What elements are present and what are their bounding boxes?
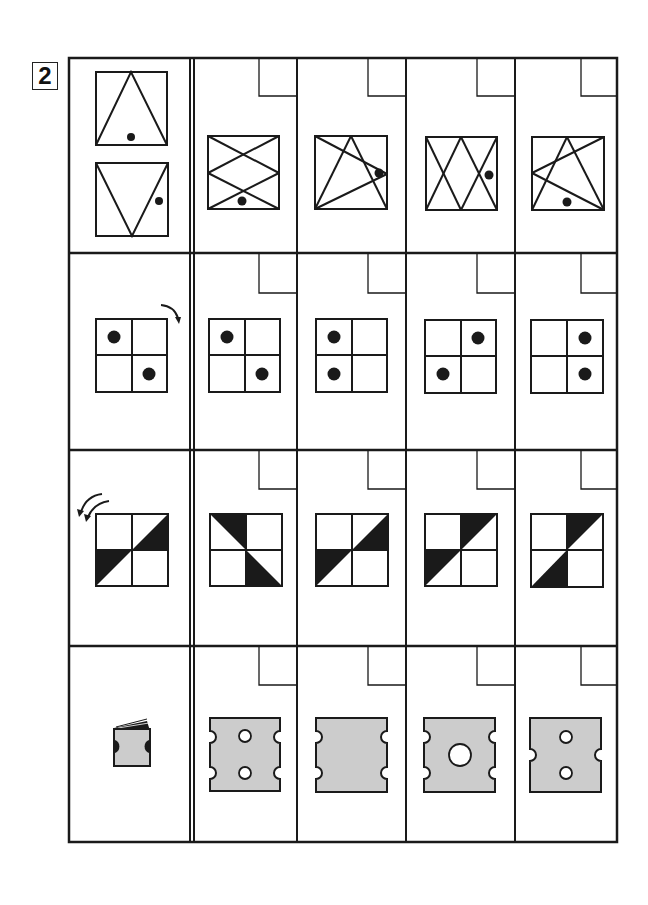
row-1-option-2[interactable] [315,136,387,209]
row-2-option-1[interactable] [209,319,280,392]
clockwise-arrow-icon [161,305,181,324]
row-3-option-4[interactable] [531,514,603,587]
row-2-option-4[interactable] [531,320,603,393]
row-3-option-2[interactable] [316,514,388,586]
row-2-option-3[interactable] [425,320,496,393]
row-3-option-1[interactable] [210,514,282,586]
row-4-option-3[interactable] [424,718,495,792]
double-counterclockwise-arrow-icon [77,494,109,522]
row-2-prompt [96,319,167,392]
row-4-option-1[interactable] [210,718,280,791]
row-3-option-3[interactable] [425,514,497,586]
row-1-option-4[interactable] [532,137,604,210]
row-3-prompt [96,514,168,586]
row-1-option-1[interactable] [208,136,279,209]
row-1-prompt [96,72,168,236]
row-1-option-3[interactable] [426,137,497,210]
row-4-option-4[interactable] [530,718,601,792]
puzzle-grid [0,0,648,905]
row-4-prompt-folded-paper [114,719,150,766]
row-2-option-2[interactable] [316,319,387,392]
row-4-option-2[interactable] [316,718,387,792]
